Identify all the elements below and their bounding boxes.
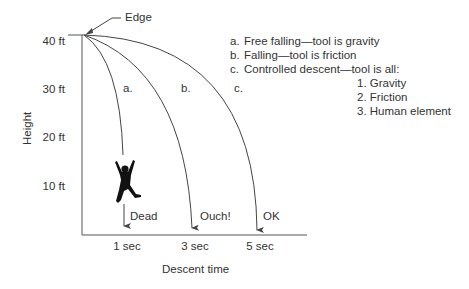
curve-b-label: b. bbox=[181, 83, 191, 95]
edge-pointer-icon bbox=[85, 18, 121, 35]
y-tick-40: 40 ft bbox=[25, 36, 65, 48]
y-tick-10: 10 ft bbox=[25, 181, 65, 193]
legend-item-b: b.Falling—tool is friction bbox=[230, 48, 451, 62]
legend-sub-friction: 2. Friction bbox=[230, 90, 451, 104]
x-tick-1-sec: 1 sec bbox=[102, 241, 152, 253]
y-axis-label: Height bbox=[22, 112, 34, 145]
legend-item-c: c.Controlled descent—tool is all: bbox=[230, 62, 451, 76]
edge-label: Edge bbox=[125, 12, 152, 24]
legend-sub-human-element: 3. Human element bbox=[230, 104, 451, 118]
legend: a.Free falling—tool is gravity b.Falling… bbox=[230, 34, 451, 118]
falling-person-icon bbox=[115, 160, 141, 203]
descent-diagram: Edge 40 ft 30 ft 20 ft 10 ft Height a. b… bbox=[0, 0, 469, 289]
x-tick-3-sec: 3 sec bbox=[170, 241, 220, 253]
y-tick-30: 30 ft bbox=[25, 84, 65, 96]
curve-a-label: a. bbox=[123, 83, 133, 95]
legend-item-a: a.Free falling—tool is gravity bbox=[230, 34, 451, 48]
outcome-dead: Dead bbox=[130, 211, 158, 223]
outcome-ok: OK bbox=[263, 211, 280, 223]
curve-a bbox=[84, 35, 123, 155]
x-tick-5-sec: 5 sec bbox=[235, 241, 285, 253]
outcome-ouch: Ouch! bbox=[200, 211, 231, 223]
legend-sub-gravity: 1. Gravity bbox=[230, 76, 451, 90]
curve-b bbox=[84, 35, 192, 228]
x-axis-label: Descent time bbox=[162, 264, 229, 276]
